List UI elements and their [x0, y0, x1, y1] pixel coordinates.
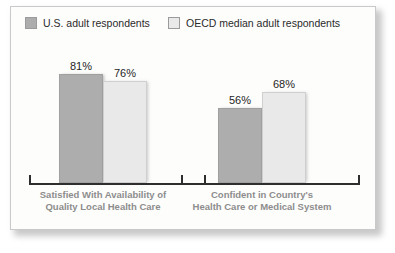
x-axis-tick — [181, 175, 183, 185]
bar-oecd-satisfied — [103, 81, 147, 183]
bar-value-label: 81% — [59, 60, 103, 72]
bar-value-label: 76% — [103, 67, 147, 79]
bar-oecd-confident — [262, 92, 306, 183]
x-axis-tick — [204, 175, 206, 185]
category-label-line: Quality Local Health Care — [18, 201, 188, 213]
bar-us-satisfied — [59, 74, 103, 183]
chart-screenshot: U.S. adult respondents OECD median adult… — [0, 0, 395, 253]
x-axis-tick — [29, 175, 31, 185]
category-label-satisfied: Satisfied With Availability of Quality L… — [18, 189, 188, 213]
bar-value-label: 56% — [218, 94, 262, 106]
category-label-confident: Confident in Country's Health Care or Me… — [177, 189, 347, 213]
chart-card: U.S. adult respondents OECD median adult… — [10, 6, 376, 230]
category-label-line: Health Care or Medical System — [177, 201, 347, 213]
category-label-line: Satisfied With Availability of — [18, 189, 188, 201]
category-label-line: Confident in Country's — [177, 189, 347, 201]
x-axis-baseline — [29, 183, 359, 185]
x-axis-tick — [358, 175, 360, 185]
bar-value-label: 68% — [262, 78, 306, 90]
bar-us-confident — [218, 108, 262, 183]
plot-area: 81% 76% 56% 68% Satisfied With Availabil… — [11, 7, 377, 231]
